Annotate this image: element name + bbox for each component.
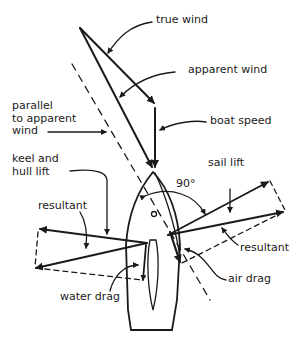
keel-resultant-arrow <box>36 243 147 268</box>
label-keel-and-hull-lift: keel and hull lift <box>12 153 59 178</box>
label-resultant-right: resultant <box>240 242 289 255</box>
air-drag-leader <box>185 249 226 280</box>
label-resultant-left: resultant <box>38 200 87 213</box>
keel <box>148 240 158 310</box>
label-sail-lift: sail lift <box>208 157 244 170</box>
label-boat-speed: boat speed <box>210 115 272 128</box>
label-90-degrees: 90° <box>176 178 196 191</box>
label-apparent-wind: apparent wind <box>188 64 267 77</box>
sail-resultant-arrow <box>168 212 283 235</box>
label-true-wind: true wind <box>156 14 208 27</box>
keel-lift-arrow <box>40 229 147 243</box>
label-water-drag: water drag <box>60 291 120 304</box>
keel-dashed-1 <box>35 232 38 267</box>
apparent-wind-arrow <box>80 28 152 167</box>
resultant-left-leader <box>80 212 87 248</box>
boat-speed-leader <box>160 121 206 130</box>
sail-dashed-1 <box>270 181 285 210</box>
true-wind-leader <box>108 22 152 53</box>
water-drag-arrow <box>143 245 146 280</box>
sailing-force-diagram: true wind apparent wind parallel to appa… <box>0 0 300 345</box>
label-air-drag: air drag <box>228 273 271 286</box>
mast <box>152 212 157 217</box>
label-parallel-to-apparent-wind: parallel to apparent wind <box>12 100 76 138</box>
water-drag-leader <box>110 265 138 291</box>
hull-outline <box>126 172 180 330</box>
true-wind-arrow <box>80 28 154 103</box>
resultant-right-leader <box>222 228 238 245</box>
